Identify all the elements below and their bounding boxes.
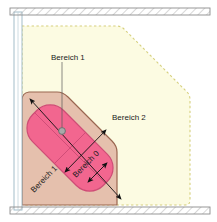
wall-left [14, 12, 22, 210]
wall-bottom-hatch [10, 207, 210, 214]
zone-diagram: Bereich 1 Bereich 2 Bereich 1 Bereich 0 [0, 0, 217, 222]
wall-top-hatch [10, 8, 210, 15]
zone-1-callout-label: Bereich 1 [51, 53, 85, 62]
diagram-canvas: Bereich 1 Bereich 2 Bereich 1 Bereich 0 [0, 0, 217, 222]
wall-bottom [10, 207, 210, 214]
source-point-marker [59, 128, 66, 135]
zone-2-label: Bereich 2 [112, 113, 146, 122]
wall-top [10, 8, 210, 15]
